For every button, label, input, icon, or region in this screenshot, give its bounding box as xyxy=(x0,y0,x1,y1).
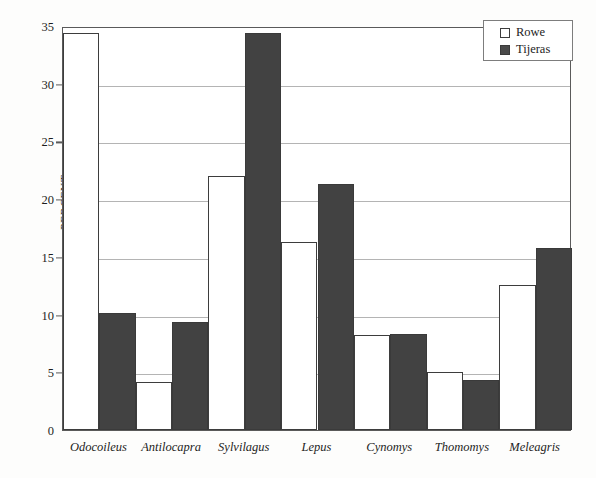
x-axis-label-cynomys: Cynomys xyxy=(366,440,412,455)
bar-thomomys-rowe xyxy=(427,372,463,430)
legend-item-rowe: Rowe xyxy=(500,24,572,41)
bar-odocoileus-tijeras xyxy=(99,313,135,430)
gridline-30 xyxy=(63,86,570,87)
bar-antilocapra-tijeras xyxy=(172,322,208,431)
bar-lepus-rowe xyxy=(281,242,317,430)
y-tick-label-35: 35 xyxy=(22,20,62,35)
x-axis-label-antilocapra: Antilocapra xyxy=(141,440,201,455)
bar-sylvilagus-rowe xyxy=(208,176,244,430)
chart-legend: RoweTijeras xyxy=(483,20,573,61)
filled-square-swatch xyxy=(500,45,510,55)
bar-chart: PERCENT 05101520253035 OdocoileusAntiloc… xyxy=(0,0,596,478)
bar-thomomys-tijeras xyxy=(463,380,499,430)
x-axis-label-meleagris: Meleagris xyxy=(509,440,560,455)
bar-odocoileus-rowe xyxy=(63,33,99,430)
x-axis-label-thomomys: Thomomys xyxy=(435,440,489,455)
bar-cynomys-rowe xyxy=(354,335,390,430)
legend-label-rowe: Rowe xyxy=(516,26,545,39)
bar-cynomys-tijeras xyxy=(390,334,426,430)
bar-meleagris-rowe xyxy=(499,285,535,430)
legend-item-tijeras: Tijeras xyxy=(500,41,572,58)
bar-meleagris-tijeras xyxy=(536,248,572,430)
bar-lepus-tijeras xyxy=(318,184,354,430)
y-tick-label-0: 0 xyxy=(22,424,62,439)
plot-area xyxy=(62,27,571,431)
legend-label-tijeras: Tijeras xyxy=(516,43,550,56)
bar-antilocapra-rowe xyxy=(136,382,172,430)
x-axis-label-lepus: Lepus xyxy=(302,440,332,455)
bar-sylvilagus-tijeras xyxy=(245,33,281,430)
x-axis-label-odocoileus: Odocoileus xyxy=(70,440,127,455)
open-square-swatch xyxy=(500,28,510,38)
gridline-25 xyxy=(63,143,570,144)
x-axis-label-sylvilagus: Sylvilagus xyxy=(218,440,269,455)
gridline-20 xyxy=(63,201,570,202)
